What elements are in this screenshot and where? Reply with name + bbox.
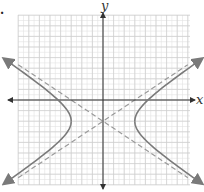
hyperbola-graph [0, 0, 204, 192]
y-axis-label: y [101, 0, 108, 13]
x-axis-label: x [196, 92, 203, 107]
